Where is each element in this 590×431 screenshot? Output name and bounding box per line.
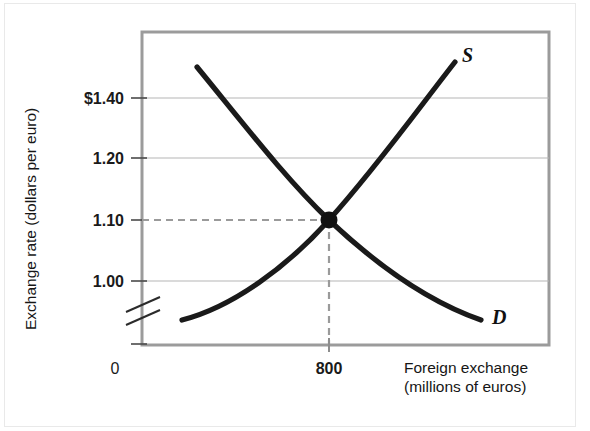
exchange-rate-supply-demand-figure: $1.40 1.20 1.10 1.00 0 800 S D Foreign e… — [0, 0, 590, 431]
ytick-label-1-00: 1.00 — [93, 273, 124, 290]
plot-area-frame — [142, 32, 549, 345]
xtick-label-800: 800 — [316, 360, 343, 377]
x-axis-title-units: (millions of euros) — [404, 378, 526, 395]
x-axis-title: Foreign exchange — [404, 359, 528, 376]
equilibrium-point — [321, 212, 338, 229]
ytick-label-1-10: 1.10 — [93, 212, 124, 229]
x-origin-label: 0 — [111, 360, 120, 377]
ytick-label-1-20: 1.20 — [93, 150, 124, 167]
supply-demand-chart: $1.40 1.20 1.10 1.00 0 800 S D Foreign e… — [0, 0, 590, 431]
ytick-label-1-40: $1.40 — [84, 90, 124, 107]
supply-curve-label: S — [462, 44, 473, 66]
demand-curve-label: D — [491, 306, 506, 328]
y-axis-title: Exchange rate (dollars per euro) — [22, 108, 39, 330]
